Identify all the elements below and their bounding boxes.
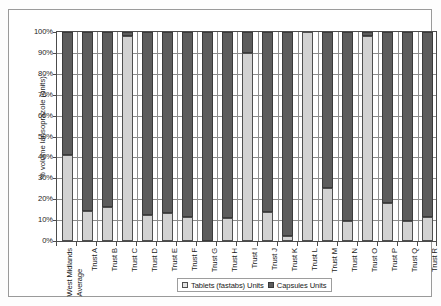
- x-axis-label: Trust E: [170, 248, 179, 272]
- y-axis-tick-label: 70%: [17, 91, 53, 99]
- vertical-gridline: [117, 32, 118, 241]
- stacked-bar[interactable]: [222, 32, 233, 241]
- bar-segment-capsules[interactable]: [222, 32, 233, 218]
- bar-segment-tablets[interactable]: [382, 203, 393, 241]
- x-axis-label: Trust B: [110, 248, 119, 272]
- bar-segment-tablets[interactable]: [282, 236, 293, 241]
- stacked-bar[interactable]: [102, 32, 113, 241]
- stacked-bar[interactable]: [202, 32, 213, 241]
- stacked-bar[interactable]: [82, 32, 93, 241]
- x-axis-label: Trust I: [250, 248, 259, 269]
- bar-segment-capsules[interactable]: [242, 32, 253, 53]
- bar-segment-tablets[interactable]: [242, 53, 253, 241]
- x-axis-label: Trust J: [270, 248, 279, 270]
- bar-segment-tablets[interactable]: [102, 207, 113, 241]
- y-axis-tick-label: 30%: [17, 174, 53, 182]
- stacked-bar[interactable]: [302, 32, 313, 241]
- legend-item[interactable]: Tablets (fastabs) Units: [182, 281, 264, 290]
- stacked-bar[interactable]: [382, 32, 393, 241]
- vertical-gridline: [77, 32, 78, 241]
- bar-segment-tablets[interactable]: [302, 32, 313, 241]
- vertical-gridline: [398, 32, 399, 241]
- bar-segment-tablets[interactable]: [402, 221, 413, 241]
- legend-label: Tablets (fastabs) Units: [191, 281, 264, 290]
- stacked-bar[interactable]: [422, 32, 433, 241]
- legend-swatch-tablets: [182, 282, 188, 288]
- vertical-gridline: [278, 32, 279, 241]
- stacked-bar[interactable]: [322, 32, 333, 241]
- bar-segment-capsules[interactable]: [282, 32, 293, 236]
- stacked-bar[interactable]: [242, 32, 253, 241]
- bar-segment-capsules[interactable]: [322, 32, 333, 188]
- x-axis-label: Trust G: [210, 248, 219, 272]
- bar-segment-capsules[interactable]: [262, 32, 273, 212]
- x-axis-label: Trust H: [230, 248, 239, 272]
- vertical-gridline: [237, 32, 238, 241]
- chart-legend: Tablets (fastabs) UnitsCapsules Units: [177, 278, 332, 292]
- bar-segment-capsules[interactable]: [142, 32, 153, 215]
- bar-segment-capsules[interactable]: [82, 32, 93, 211]
- x-axis-label: Trust R: [430, 248, 439, 272]
- vertical-gridline: [338, 32, 339, 241]
- bar-segment-tablets[interactable]: [162, 213, 173, 241]
- x-axis-label: Trust K: [290, 248, 299, 272]
- bar-segment-capsules[interactable]: [182, 32, 193, 217]
- stacked-bar[interactable]: [262, 32, 273, 241]
- bar-segment-capsules[interactable]: [202, 32, 213, 241]
- bar-segment-tablets[interactable]: [342, 221, 353, 241]
- x-axis-label: Trust M: [330, 248, 339, 273]
- x-axis-label: Trust L: [310, 248, 319, 271]
- vertical-gridline: [418, 32, 419, 241]
- bar-segment-capsules[interactable]: [422, 32, 433, 217]
- bar-segment-capsules[interactable]: [162, 32, 173, 213]
- stacked-bar[interactable]: [142, 32, 153, 241]
- x-axis-label: Trust A: [90, 248, 99, 271]
- bar-segment-tablets[interactable]: [222, 218, 233, 241]
- vertical-gridline: [177, 32, 178, 241]
- y-axis-tick-label: 40%: [17, 153, 53, 161]
- bar-segment-capsules[interactable]: [102, 32, 113, 207]
- bar-segment-tablets[interactable]: [62, 155, 73, 241]
- stacked-bar[interactable]: [402, 32, 413, 241]
- bar-segment-tablets[interactable]: [182, 217, 193, 241]
- legend-item[interactable]: Capsules Units: [268, 281, 327, 290]
- bar-segment-tablets[interactable]: [422, 217, 433, 241]
- legend-label: Capsules Units: [277, 281, 327, 290]
- bar-segment-capsules[interactable]: [402, 32, 413, 221]
- stacked-bar[interactable]: [282, 32, 293, 241]
- stacked-bar[interactable]: [122, 32, 133, 241]
- y-axis-tick-label: 80%: [17, 70, 53, 78]
- stacked-bar[interactable]: [362, 32, 373, 241]
- y-axis-tick-label: 50%: [17, 133, 53, 141]
- bar-segment-tablets[interactable]: [82, 211, 93, 241]
- stacked-bar[interactable]: [62, 32, 73, 241]
- bar-segment-tablets[interactable]: [362, 36, 373, 241]
- bar-segment-tablets[interactable]: [262, 212, 273, 241]
- vertical-gridline: [217, 32, 218, 241]
- bar-segment-capsules[interactable]: [62, 32, 73, 155]
- y-axis-tick-label: 0%: [17, 237, 53, 245]
- vertical-gridline: [197, 32, 198, 241]
- bar-segment-tablets[interactable]: [122, 36, 133, 241]
- stacked-bar[interactable]: [162, 32, 173, 241]
- bar-segment-capsules[interactable]: [342, 32, 353, 221]
- vertical-gridline: [137, 32, 138, 241]
- x-axis-label-line: Average: [75, 248, 85, 296]
- y-axis-tick-label: 60%: [17, 112, 53, 120]
- vertical-gridline: [157, 32, 158, 241]
- chart-page: % volume lansoprazole (units). 100%90%80…: [0, 0, 441, 306]
- y-axis-tick-label: 90%: [17, 49, 53, 57]
- bar-segment-capsules[interactable]: [382, 32, 393, 203]
- plot-area: [56, 31, 437, 242]
- x-axis-label-line: West Midlands: [65, 248, 75, 296]
- y-axis-tick-label: 10%: [17, 216, 53, 224]
- x-axis-label: Trust F: [190, 248, 199, 271]
- stacked-bar[interactable]: [342, 32, 353, 241]
- x-axis-label: West MidlandsAverage: [65, 248, 84, 296]
- bar-segment-tablets[interactable]: [142, 215, 153, 241]
- x-axis-label: Trust D: [150, 248, 159, 272]
- bar-segment-tablets[interactable]: [322, 188, 333, 241]
- x-axis-label: Trust Q: [410, 248, 419, 272]
- vertical-gridline: [318, 32, 319, 241]
- stacked-bar[interactable]: [182, 32, 193, 241]
